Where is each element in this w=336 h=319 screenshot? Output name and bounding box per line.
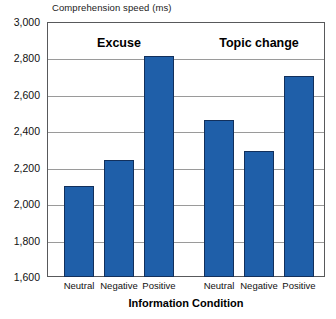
bar [284,76,314,277]
x-axis-tick-label: Neutral [204,280,235,291]
x-axis-tick-label: Neutral [64,280,95,291]
y-axis-tick-label: 2,800 [14,52,40,64]
gridline [48,278,324,279]
bar [204,120,234,277]
x-axis-tick-label: Negative [240,280,278,291]
y-axis-tick-labels: 3,0002,8002,6002,4002,2002,0001,8001,600 [0,22,45,277]
x-axis-tick-label: Positive [282,280,315,291]
y-axis-tick-label: 3,000 [14,16,40,28]
y-axis-tick-label: 2,400 [14,125,40,137]
y-axis-title: Comprehension speed (ms) [52,2,172,13]
bar [144,56,174,277]
y-axis-tick-label: 1,600 [14,271,40,283]
x-axis-tick-label: Negative [100,280,138,291]
x-axis-title: Information Condition [47,297,325,309]
x-axis-tick-label: Positive [142,280,175,291]
bar [104,160,134,277]
bar [64,186,94,277]
group-label: Excuse [97,36,141,50]
y-axis-tick-label: 2,000 [14,198,40,210]
y-axis-tick-label: 2,200 [14,162,40,174]
group-label: Topic change [219,36,299,50]
bar-chart: Comprehension speed (ms) 3,0002,8002,600… [0,0,336,319]
bars-layer: ExcuseTopic change [47,22,325,277]
y-axis-tick-label: 2,600 [14,89,40,101]
y-axis-tick-label: 1,800 [14,235,40,247]
bar [244,151,274,277]
x-axis-tick-labels: NeutralNegativePositiveNeutralNegativePo… [47,280,325,296]
